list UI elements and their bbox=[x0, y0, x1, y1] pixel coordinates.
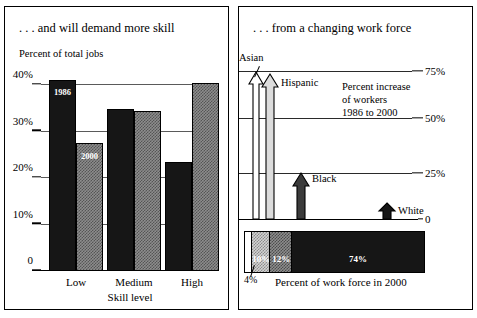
gridline-75 bbox=[239, 71, 412, 72]
rtick-dash-0 bbox=[418, 218, 423, 219]
workforce-stacked-bar: 10% 12% 74% bbox=[244, 231, 425, 273]
x-axis-title: Skill level bbox=[41, 291, 219, 303]
ytick-label-40: 40% bbox=[13, 69, 33, 80]
ytick-dash-30 bbox=[32, 129, 41, 130]
bar-2000-high bbox=[192, 83, 219, 271]
bar-1986-medium bbox=[107, 109, 134, 271]
bar-2000-low: 2000 bbox=[76, 143, 103, 271]
stack-label-asian: 10% bbox=[252, 254, 270, 264]
left-chart-panel: . . . and will demand more skill Percent… bbox=[4, 6, 229, 310]
rtick-dash-75 bbox=[412, 70, 423, 71]
ytick-label-25: 25% bbox=[425, 168, 445, 179]
arrow-black bbox=[292, 172, 310, 219]
arrow-label-hispanic: Hispanic bbox=[281, 77, 318, 88]
ytick-label-50: 50% bbox=[425, 113, 445, 124]
ytick-label-30: 30% bbox=[13, 115, 33, 126]
note-line-2: of workers bbox=[342, 93, 387, 106]
stack-segment-hispanic: 12% bbox=[270, 232, 292, 272]
ytick-dash-20 bbox=[32, 176, 41, 177]
ytick-label-20: 20% bbox=[13, 162, 33, 173]
arrow-label-black: Black bbox=[312, 173, 337, 184]
bar-1986-high bbox=[165, 162, 192, 271]
arrow-label-white: White bbox=[398, 205, 424, 216]
note-line-1: Percent increase bbox=[342, 80, 411, 93]
stack-label-white: 74% bbox=[349, 254, 367, 264]
ytick-label-75: 75% bbox=[425, 66, 445, 77]
legend-label-1986: 1986 bbox=[50, 87, 75, 97]
arrow-label-asian: Asian bbox=[239, 52, 264, 63]
arrow-hispanic bbox=[261, 73, 279, 219]
ytick-label-0: 0 bbox=[28, 255, 34, 266]
figure-root: . . . and will demand more skill Percent… bbox=[0, 0, 477, 318]
xtick-label-high: High bbox=[165, 276, 219, 288]
ytick-dash-40 bbox=[32, 83, 41, 84]
legend-label-2000: 2000 bbox=[77, 151, 102, 161]
stack-segment-other bbox=[245, 232, 252, 272]
left-panel-title: . . . and will demand more skill bbox=[19, 21, 175, 36]
note-line-3: 1986 to 2000 bbox=[342, 106, 397, 119]
stack-label-hispanic: 12% bbox=[272, 254, 290, 264]
stacked-bar-caption: Percent of work force in 2000 bbox=[275, 276, 407, 288]
xtick-label-medium: Medium bbox=[107, 276, 161, 288]
stack-segment-white: 74% bbox=[292, 232, 424, 272]
ytick-dash-10 bbox=[32, 222, 41, 223]
right-panel-title: . . . from a changing work force bbox=[253, 21, 411, 36]
rtick-dash-25 bbox=[412, 172, 423, 173]
stack-label-other: 4% bbox=[244, 274, 257, 285]
stack-segment-asian: 10% bbox=[252, 232, 270, 272]
xtick-label-low: Low bbox=[49, 276, 103, 288]
ytick-label-10: 10% bbox=[13, 208, 33, 219]
bar-2000-medium bbox=[134, 111, 161, 271]
bar-1986-low: 1986 bbox=[49, 80, 76, 271]
left-plot-area: 40% 30% 20% 10% 0 1986 2000 Low Medium bbox=[41, 71, 219, 271]
left-panel-subtitle: Percent of total jobs bbox=[19, 48, 103, 59]
arrow-white bbox=[378, 202, 396, 219]
ytick-label-0: 0 bbox=[425, 214, 431, 225]
rtick-dash-50 bbox=[412, 117, 423, 118]
